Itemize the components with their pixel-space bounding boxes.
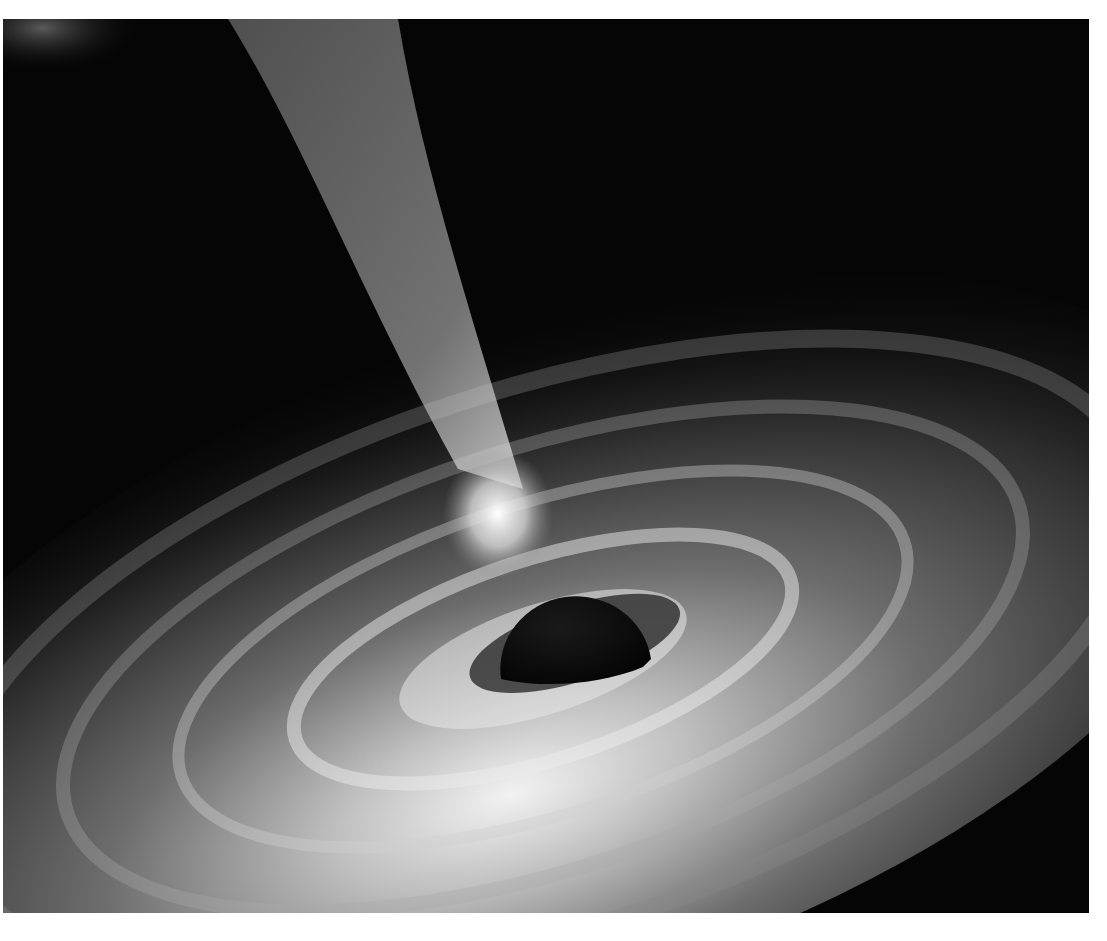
black-hole-illustration [3,19,1089,913]
black-hole-scene [3,19,1089,913]
jet-tip [443,449,553,579]
